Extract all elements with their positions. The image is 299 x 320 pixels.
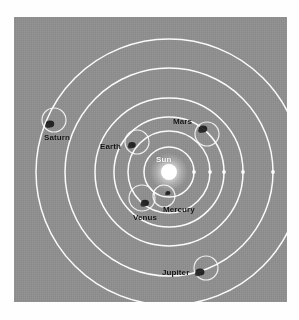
jupiter-body-shadow xyxy=(195,272,201,276)
earth-body-shadow xyxy=(128,145,133,149)
earth-body-group xyxy=(128,142,136,149)
mars-epicycle xyxy=(195,122,219,146)
jupiter-epicycle xyxy=(194,256,218,280)
sun-label: Sun xyxy=(156,156,171,164)
earth-epicycle xyxy=(125,130,149,154)
venus-label: Venus xyxy=(133,214,157,222)
venus-node xyxy=(208,170,212,174)
venus-epicycle xyxy=(129,185,155,211)
mercury-body-group xyxy=(165,191,170,195)
mercury-label: Mercury xyxy=(163,206,195,214)
sun-disc xyxy=(161,164,177,180)
jupiter-node xyxy=(271,170,275,174)
orbit-layer xyxy=(14,17,287,302)
mars-body-shadow xyxy=(198,129,203,133)
diagram-scene: SunMercuryVenusEarthMarsJupiterSaturn xyxy=(14,17,287,302)
earth-label: Earth xyxy=(100,143,121,151)
mars-label: Mars xyxy=(173,118,192,126)
jupiter-body-group xyxy=(195,268,205,276)
saturn-body-shadow xyxy=(45,124,50,128)
diagram-plate: SunMercuryVenusEarthMarsJupiterSaturn xyxy=(14,17,287,302)
saturn-label: Saturn xyxy=(44,134,70,142)
jupiter-label: Jupiter xyxy=(162,269,189,277)
orbit-node-markers xyxy=(192,170,275,174)
venus-body-shadow xyxy=(140,203,145,207)
solar-system-figure: SunMercuryVenusEarthMarsJupiterSaturn xyxy=(0,0,299,320)
earth-node xyxy=(222,170,226,174)
venus-body-group xyxy=(140,200,149,207)
saturn-epicycle xyxy=(42,108,66,132)
mercury-node xyxy=(192,170,196,174)
mars-node xyxy=(241,170,245,174)
mercury-body-shadow xyxy=(165,193,168,195)
